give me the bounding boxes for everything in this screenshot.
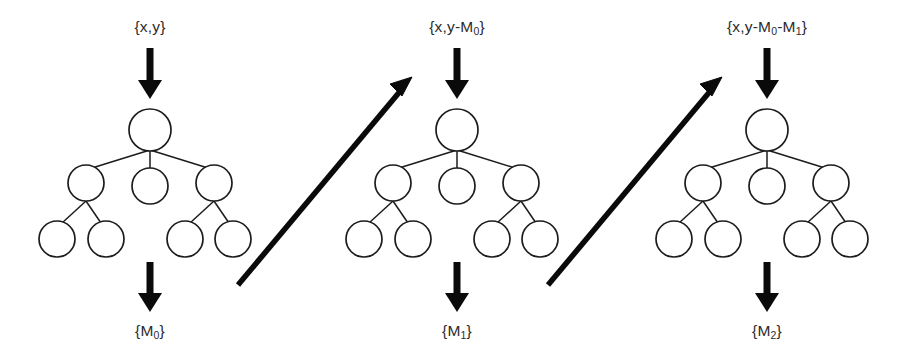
tree-node-leaf-2 (395, 221, 431, 257)
stage-1-tree (307, 0, 607, 363)
stage-0-tree (0, 0, 300, 363)
tree-node-leaf-1 (656, 221, 692, 257)
tree-node-root (746, 109, 788, 151)
tree-nodes (39, 109, 251, 257)
stage-2-output-tail: } (777, 322, 782, 339)
tree-node-root (129, 109, 171, 151)
tree-node-leaf-2 (88, 221, 124, 257)
tree-node-leaf-4 (832, 221, 868, 257)
tree-node-child-left (685, 165, 721, 201)
stage-0-output-label: {M0} (0, 322, 300, 340)
tree-node-root (436, 109, 478, 151)
tree-node-leaf-4 (522, 221, 558, 257)
tree-node-leaf-1 (39, 221, 75, 257)
tree-node-leaf-3 (784, 221, 820, 257)
tree-node-child-right (503, 165, 539, 201)
stage-2-output-label: {M2} (617, 322, 917, 340)
tree-node-leaf-3 (474, 221, 510, 257)
tree-node-child-left (68, 165, 104, 201)
tree-node-child-mid (749, 168, 785, 204)
stage-1-output-sub: 1 (461, 329, 467, 341)
stage-0-output-tail: } (160, 322, 165, 339)
stage-2-tree (617, 0, 917, 363)
stage-panel-2: {x,y-M0-M1} (617, 0, 917, 363)
tree-node-leaf-1 (346, 221, 382, 257)
stage-1-output-base: {M (442, 322, 461, 339)
tree-node-child-mid (132, 168, 168, 204)
stage-2-output-sub: 2 (771, 329, 777, 341)
tree-node-child-mid (439, 168, 475, 204)
tree-nodes (656, 109, 868, 257)
tree-node-child-right (813, 165, 849, 201)
stage-0-output-base: {M (135, 322, 154, 339)
stage-1-output-tail: } (467, 322, 472, 339)
stage-panel-0: {x,y} (0, 0, 300, 363)
tree-node-leaf-2 (705, 221, 741, 257)
tree-node-child-right (196, 165, 232, 201)
tree-node-child-left (375, 165, 411, 201)
tree-node-leaf-4 (215, 221, 251, 257)
stage-0-output-sub: 0 (154, 329, 160, 341)
tree-nodes (346, 109, 558, 257)
stage-panel-1: {x,y-M0} (307, 0, 607, 363)
stage-1-output-label: {M1} (307, 322, 607, 340)
diagram-canvas: {x,y} (0, 0, 922, 363)
tree-node-leaf-3 (167, 221, 203, 257)
stage-2-output-base: {M (752, 322, 771, 339)
